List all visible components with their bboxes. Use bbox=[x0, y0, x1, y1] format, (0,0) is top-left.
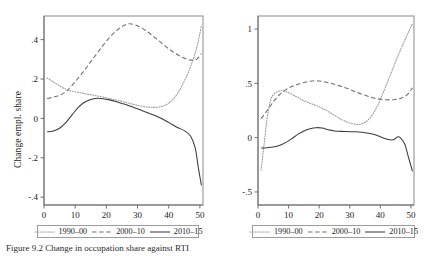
x-tick-label: 20 bbox=[102, 210, 112, 220]
y-tick-label: .5 bbox=[245, 79, 252, 89]
legend-item: 1990–00 bbox=[32, 227, 90, 236]
legend-right: 1990–002000–102010–15 bbox=[252, 225, 415, 238]
y-tick-label: -.5 bbox=[242, 187, 252, 197]
legend-label: 1990–00 bbox=[59, 227, 88, 236]
y-tick-label: 1 bbox=[248, 24, 253, 34]
legend-swatch-dashed bbox=[307, 228, 329, 235]
x-tick-label: 40 bbox=[164, 210, 174, 220]
y-tick-label: -.2 bbox=[28, 153, 38, 163]
x-tick-label: 0 bbox=[256, 210, 261, 220]
series-line-dashed bbox=[261, 81, 412, 119]
plot-area-right: 1.50-.501020304050 bbox=[216, 0, 433, 240]
x-tick-label: 10 bbox=[284, 210, 294, 220]
legend-item: 2010–15 bbox=[362, 227, 420, 236]
x-tick-label: 20 bbox=[315, 210, 325, 220]
legend-swatch-dotted bbox=[249, 228, 271, 235]
chart-panel-left: Change empl. share .4.20-.2-.40102030405… bbox=[0, 0, 216, 240]
legend-swatch-dashed bbox=[91, 228, 113, 235]
legend-item: 2000–10 bbox=[89, 227, 147, 236]
y-tick-label: -.4 bbox=[28, 192, 38, 202]
legend-item: 2010–15 bbox=[147, 227, 205, 236]
legend-label: 2010–15 bbox=[389, 227, 418, 236]
series-line-dashed bbox=[47, 24, 201, 99]
figure-caption: Figure 9.2 Change in occupation share ag… bbox=[6, 243, 426, 253]
series-line-solid bbox=[261, 128, 412, 172]
figure-container: Change empl. share .4.20-.2-.40102030405… bbox=[0, 0, 433, 256]
legend-item: 1990–00 bbox=[247, 227, 305, 236]
y-tick-label: .4 bbox=[31, 35, 38, 45]
legend-label: 2000–10 bbox=[332, 227, 361, 236]
x-tick-label: 40 bbox=[376, 210, 386, 220]
x-tick-label: 50 bbox=[406, 210, 416, 220]
chart-panel-right: Log change empl. share 1.50-.50102030405… bbox=[216, 0, 433, 240]
x-tick-label: 10 bbox=[71, 210, 81, 220]
legend-swatch-dotted bbox=[34, 228, 56, 235]
legend-left: 1990–002000–102010–15 bbox=[37, 225, 199, 238]
plot-area-left: .4.20-.2-.401020304050 bbox=[0, 0, 216, 240]
legend-label: 1990–00 bbox=[274, 227, 303, 236]
x-tick-label: 30 bbox=[133, 210, 143, 220]
y-tick-label: .2 bbox=[31, 74, 38, 84]
legend-swatch-solid bbox=[364, 228, 386, 235]
series-line-dotted bbox=[261, 24, 412, 171]
y-tick-label: 0 bbox=[34, 114, 39, 124]
legend-item: 2000–10 bbox=[305, 227, 363, 236]
legend-swatch-solid bbox=[149, 228, 171, 235]
x-tick-label: 30 bbox=[345, 210, 355, 220]
legend-label: 2000–10 bbox=[116, 227, 145, 236]
legend-label: 2010–15 bbox=[174, 227, 203, 236]
series-line-solid bbox=[47, 98, 201, 185]
x-tick-label: 0 bbox=[42, 210, 47, 220]
y-tick-label: 0 bbox=[248, 133, 253, 143]
series-line-dotted bbox=[47, 26, 201, 108]
x-tick-label: 50 bbox=[195, 210, 205, 220]
